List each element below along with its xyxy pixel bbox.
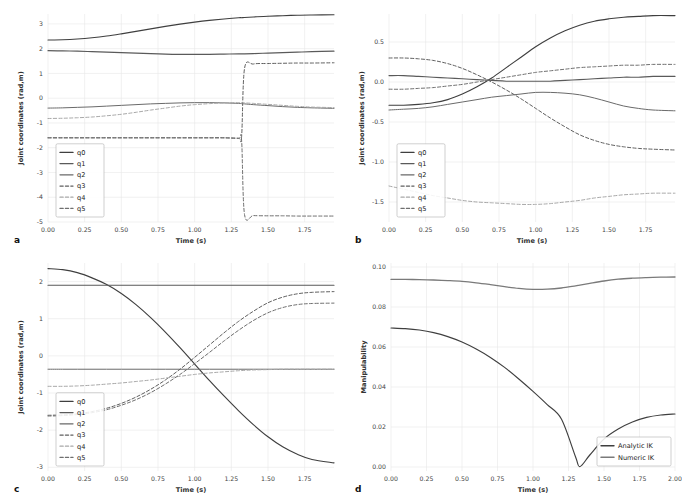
legend-label: q1 <box>77 160 85 168</box>
panel-b: 0.000.250.500.751.001.251.501.750.50.0-0… <box>341 0 682 249</box>
y-tick-label: 3 <box>39 20 43 27</box>
x-tick-label: 0.00 <box>384 475 398 482</box>
x-tick-label: 1.50 <box>261 226 275 233</box>
x-tick-label: 0.75 <box>151 475 165 482</box>
y-tick-label: 0.02 <box>372 423 386 430</box>
y-axis-title: Joint coordinates (rad,m) <box>17 71 25 165</box>
series-line-q3 <box>389 58 675 150</box>
panel-a-plot: 0.000.250.500.751.001.251.501.753210-1-2… <box>0 0 341 249</box>
x-tick-label: 1.75 <box>639 226 653 233</box>
legend-label: q3 <box>77 182 85 190</box>
x-tick-label: 1.75 <box>633 475 647 482</box>
y-tick-label: 0.0 <box>374 78 384 85</box>
series-line-q1 <box>389 76 675 82</box>
x-axis-title: Time (s) <box>176 237 206 245</box>
y-tick-label: 1 <box>39 315 43 322</box>
legend: q0q1q2q3q4q5 <box>56 393 104 466</box>
x-tick-label: 1.25 <box>565 226 579 233</box>
y-tick-label: 1 <box>39 70 43 77</box>
x-tick-label: 0.50 <box>455 475 469 482</box>
y-tick-label: -1.0 <box>372 158 384 165</box>
panel-d: 0.000.250.500.751.001.251.501.752.000.10… <box>341 249 682 498</box>
legend-label: q2 <box>77 171 85 179</box>
x-tick-label: 1.50 <box>602 226 616 233</box>
legend-label: q2 <box>418 171 426 179</box>
y-tick-label: -3 <box>37 169 43 176</box>
x-tick-label: 1.00 <box>188 475 202 482</box>
x-tick-label: 0.50 <box>114 226 128 233</box>
legend-label: q1 <box>77 409 85 417</box>
x-axis-title: Time (s) <box>517 237 547 245</box>
x-tick-label: 1.00 <box>526 475 540 482</box>
x-tick-label: 0.50 <box>114 475 128 482</box>
panel-d-plot: 0.000.250.500.751.001.251.501.752.000.10… <box>341 249 682 498</box>
legend-label: q0 <box>77 398 85 406</box>
legend-label: Analytic IK <box>618 442 654 450</box>
x-tick-label: 0.25 <box>78 226 92 233</box>
y-tick-label: 0.04 <box>372 383 386 390</box>
series-line-q4 <box>48 103 334 119</box>
y-tick-label: -2 <box>37 144 43 151</box>
y-tick-label: 0.10 <box>372 263 386 270</box>
x-tick-label: 1.25 <box>562 475 576 482</box>
legend: q0q1q2q3q4q5 <box>56 144 104 217</box>
x-tick-label: 1.25 <box>224 226 238 233</box>
x-tick-label: 0.25 <box>78 475 92 482</box>
y-tick-label: -4 <box>37 193 43 200</box>
y-tick-label: 2 <box>39 45 43 52</box>
x-tick-label: 0.00 <box>41 226 55 233</box>
y-tick-label: -3 <box>37 463 43 470</box>
y-tick-label: 0.08 <box>372 303 386 310</box>
y-axis-title: Joint coordinates (rad,m) <box>358 71 366 165</box>
x-axis-title: Time (s) <box>518 486 548 494</box>
y-tick-label: 0.06 <box>372 343 386 350</box>
y-tick-label: 0.5 <box>374 38 384 45</box>
x-tick-label: 0.25 <box>420 475 434 482</box>
legend: Analytic IKNumeric IK <box>597 437 671 466</box>
legend-label: q5 <box>77 454 85 462</box>
panel-c-letter: c <box>14 484 19 494</box>
x-tick-label: 2.00 <box>668 475 682 482</box>
y-tick-label: 0.00 <box>372 463 386 470</box>
series-line-q2 <box>389 92 675 111</box>
x-tick-label: 1.50 <box>261 475 275 482</box>
y-tick-label: 0 <box>39 352 43 359</box>
y-tick-label: -5 <box>37 218 43 225</box>
legend-label: q3 <box>418 182 426 190</box>
panel-a: 0.000.250.500.751.001.251.501.753210-1-2… <box>0 0 341 249</box>
y-axis-title: Joint coordinates (rad,m) <box>17 320 25 414</box>
legend-label: q3 <box>77 431 85 439</box>
series-line-q1 <box>48 51 334 55</box>
x-tick-label: 1.25 <box>224 475 238 482</box>
x-tick-label: 1.75 <box>298 475 312 482</box>
x-tick-label: 1.50 <box>597 475 611 482</box>
legend-label: q2 <box>77 420 85 428</box>
legend: q0q1q2q3q4q5 <box>397 144 445 217</box>
x-tick-label: 0.75 <box>151 226 165 233</box>
legend-label: q4 <box>77 443 85 451</box>
panel-a-letter: a <box>14 235 20 245</box>
series-line-q3 <box>48 62 334 142</box>
x-tick-label: 0.25 <box>419 226 433 233</box>
panel-d-letter: d <box>355 484 361 494</box>
x-tick-label: 0.75 <box>491 475 505 482</box>
legend-label: Numeric IK <box>618 454 655 462</box>
legend-label: q1 <box>418 160 426 168</box>
x-tick-label: 0.00 <box>382 226 396 233</box>
series-line-q4 <box>48 369 334 386</box>
legend-label: q5 <box>418 205 426 213</box>
y-tick-label: 2 <box>39 278 43 285</box>
y-axis-title: Manipulability <box>360 340 368 394</box>
legend-label: q4 <box>418 194 426 202</box>
x-tick-label: 1.00 <box>188 226 202 233</box>
legend-label: q0 <box>418 149 426 157</box>
x-tick-label: 1.00 <box>529 226 543 233</box>
panel-c: 0.000.250.500.751.001.251.501.75210-1-2-… <box>0 249 341 498</box>
series-line-q0 <box>48 15 334 40</box>
x-tick-label: 1.75 <box>298 226 312 233</box>
panel-b-plot: 0.000.250.500.751.001.251.501.750.50.0-0… <box>341 0 682 249</box>
y-tick-label: -1 <box>37 119 43 126</box>
legend-label: q4 <box>77 194 85 202</box>
x-tick-label: 0.75 <box>492 226 506 233</box>
legend-label: q0 <box>77 149 85 157</box>
